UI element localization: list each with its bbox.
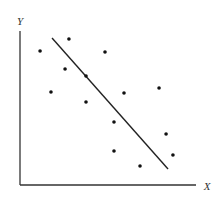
x-axis-label: X (203, 180, 212, 192)
data-point (49, 90, 53, 94)
data-point (112, 149, 116, 153)
data-point (138, 164, 142, 168)
data-point (38, 49, 42, 53)
data-point (122, 91, 126, 95)
scatter-chart: Y X (0, 0, 219, 203)
y-axis-label: Y (17, 15, 25, 27)
fitted-regression-line (52, 38, 168, 169)
data-point (84, 74, 88, 78)
data-point (157, 86, 161, 90)
data-point (112, 120, 116, 124)
data-point (84, 100, 88, 104)
data-point (63, 67, 67, 71)
data-point (103, 50, 107, 54)
data-point (164, 132, 168, 136)
data-point (67, 37, 71, 41)
data-point (171, 153, 175, 157)
regression-line-group (52, 38, 168, 169)
data-points-group (38, 37, 174, 168)
